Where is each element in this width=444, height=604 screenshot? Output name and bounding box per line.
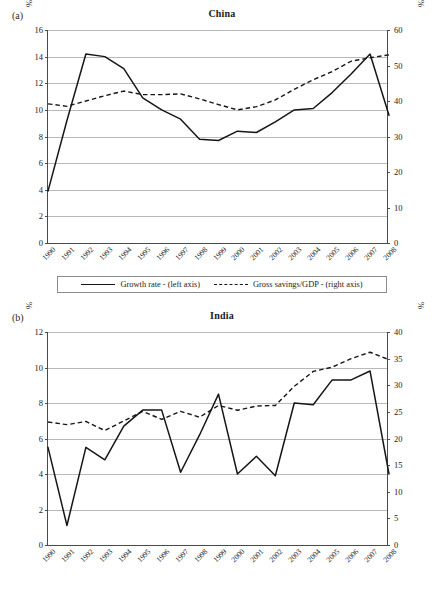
y-axis-label-right-india: % bbox=[416, 302, 426, 309]
y-tick-label-left-china: 4 bbox=[39, 185, 43, 195]
y-tick-label-left-india: 12 bbox=[35, 327, 44, 337]
y-tick-label-left-india: 8 bbox=[39, 398, 43, 408]
y-tick-label-left-china: 0 bbox=[39, 238, 43, 248]
x-tick-label-china: 2005 bbox=[324, 245, 341, 262]
y-tick-label-right-china: 20 bbox=[394, 167, 403, 177]
legend-item-china: Gross savings/GDP - (right axis) bbox=[214, 280, 363, 289]
x-tick-label-india: 2005 bbox=[324, 547, 341, 564]
y-tick-label-left-china: 2 bbox=[39, 211, 43, 221]
y-tick-label-left-india: 4 bbox=[39, 469, 43, 479]
x-tick-label-india: 1998 bbox=[192, 547, 209, 564]
x-tick-label-china: 2001 bbox=[249, 245, 266, 262]
x-tick-label-india: 1996 bbox=[154, 547, 171, 564]
x-tick-label-india: 1997 bbox=[173, 547, 190, 564]
series-line-savings-india bbox=[48, 352, 389, 430]
y-tick-label-right-china: 10 bbox=[394, 203, 403, 213]
y-tick-label-right-india: 30 bbox=[394, 380, 403, 390]
x-tick-label-china: 2004 bbox=[305, 245, 322, 262]
series-line-growth-india bbox=[48, 371, 389, 525]
x-tick-label-china: 1996 bbox=[154, 245, 171, 262]
plot-area-china: 02468101214160102030405060 bbox=[47, 30, 388, 243]
y-tick-label-right-india: 5 bbox=[394, 513, 398, 523]
legend-label: Growth rate - (left axis) bbox=[120, 280, 200, 289]
y-tick-label-left-china: 10 bbox=[35, 105, 44, 115]
y-tick-label-right-india: 25 bbox=[394, 407, 403, 417]
x-tick-label-china: 1993 bbox=[97, 245, 114, 262]
x-tick-label-china: 1998 bbox=[192, 245, 209, 262]
y-tick-label-right-india: 20 bbox=[394, 434, 403, 444]
x-tick-label-china: 1999 bbox=[211, 245, 228, 262]
series-layer-china bbox=[48, 30, 389, 243]
x-tick-label-china: 1991 bbox=[59, 245, 76, 262]
x-tick-label-india: 2004 bbox=[305, 547, 322, 564]
chart-panel-india: (b) India % % 0246810120510152025303540 … bbox=[0, 302, 444, 604]
y-axis-label-left-china: % bbox=[24, 0, 34, 7]
chart-title-india: India bbox=[0, 310, 444, 321]
x-tick-label-china: 2002 bbox=[268, 245, 285, 262]
x-axis-labels-india: 1990199119921993199419951996199719981999… bbox=[47, 547, 388, 585]
legend-china: Growth rate - (left axis)Gross savings/G… bbox=[57, 276, 387, 293]
x-tick-label-india: 2006 bbox=[343, 547, 360, 564]
x-tick-label-china: 1995 bbox=[135, 245, 152, 262]
y-tick-mark-left bbox=[45, 243, 48, 244]
x-tick-label-india: 1999 bbox=[211, 547, 228, 564]
y-tick-label-left-india: 6 bbox=[39, 434, 43, 444]
y-tick-label-left-china: 6 bbox=[39, 158, 43, 168]
series-line-savings-china bbox=[48, 55, 389, 110]
y-tick-label-right-china: 0 bbox=[394, 238, 398, 248]
x-tick-label-china: 1992 bbox=[78, 245, 95, 262]
y-tick-label-left-india: 10 bbox=[35, 363, 44, 373]
x-tick-label-china: 2006 bbox=[343, 245, 360, 262]
y-tick-label-right-china: 60 bbox=[394, 25, 403, 35]
plot-area-india: 0246810120510152025303540 bbox=[47, 332, 388, 545]
y-tick-label-left-india: 0 bbox=[39, 540, 43, 550]
y-tick-label-left-china: 14 bbox=[35, 52, 44, 62]
x-tick-label-india: 2000 bbox=[230, 547, 247, 564]
y-tick-label-left-china: 12 bbox=[35, 78, 44, 88]
solid-line-icon bbox=[81, 284, 115, 285]
y-tick-label-right-india: 15 bbox=[394, 460, 403, 470]
y-tick-label-left-china: 8 bbox=[39, 132, 43, 142]
x-tick-label-china: 1997 bbox=[173, 245, 190, 262]
x-tick-label-india: 2007 bbox=[362, 547, 379, 564]
chart-title-china: China bbox=[0, 8, 444, 19]
y-tick-label-left-india: 2 bbox=[39, 505, 43, 515]
series-layer-india bbox=[48, 332, 389, 545]
y-tick-label-right-china: 40 bbox=[394, 96, 403, 106]
x-tick-label-india: 2002 bbox=[268, 547, 285, 564]
x-tick-label-china: 2007 bbox=[362, 245, 379, 262]
dashed-line-icon bbox=[214, 284, 248, 285]
y-tick-mark-right bbox=[387, 545, 390, 546]
y-tick-label-right-india: 40 bbox=[394, 327, 403, 337]
y-tick-label-right-india: 0 bbox=[394, 540, 398, 550]
y-tick-label-left-china: 16 bbox=[35, 25, 44, 35]
chart-panel-china: (a) China % % 02468101214160102030405060… bbox=[0, 0, 444, 302]
x-tick-label-india: 1994 bbox=[116, 547, 133, 564]
x-tick-label-india: 2003 bbox=[287, 547, 304, 564]
x-tick-label-india: 1993 bbox=[97, 547, 114, 564]
x-tick-label-india: 2001 bbox=[249, 547, 266, 564]
series-line-growth-china bbox=[48, 54, 389, 191]
y-axis-label-left-india: % bbox=[24, 302, 34, 309]
gridline bbox=[48, 545, 387, 546]
legend-item-china: Growth rate - (left axis) bbox=[81, 280, 200, 289]
x-tick-label-china: 1994 bbox=[116, 245, 133, 262]
x-tick-label-china: 2003 bbox=[287, 245, 304, 262]
x-tick-label-india: 1995 bbox=[135, 547, 152, 564]
gridline bbox=[48, 243, 387, 244]
y-tick-label-right-india: 35 bbox=[394, 354, 403, 364]
x-tick-label-china: 2000 bbox=[230, 245, 247, 262]
x-tick-label-india: 1992 bbox=[78, 547, 95, 564]
y-tick-label-right-china: 50 bbox=[394, 61, 403, 71]
legend-label: Gross savings/GDP - (right axis) bbox=[253, 280, 363, 289]
y-axis-label-right-china: % bbox=[416, 0, 426, 7]
x-tick-label-india: 1991 bbox=[59, 547, 76, 564]
y-tick-label-right-china: 30 bbox=[394, 132, 403, 142]
y-tick-mark-left bbox=[45, 545, 48, 546]
y-tick-label-right-india: 10 bbox=[394, 487, 403, 497]
y-tick-mark-right bbox=[387, 243, 390, 244]
